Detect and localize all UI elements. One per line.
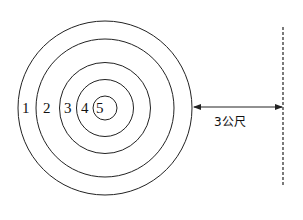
ring-label-5: 5 bbox=[96, 100, 104, 116]
ring-2 bbox=[36, 39, 174, 177]
diagram-canvas: 1 2 3 4 5 3公尺 bbox=[0, 0, 303, 220]
target-diagram: 1 2 3 4 5 3公尺 bbox=[0, 0, 303, 220]
ring-label-4: 4 bbox=[81, 100, 89, 116]
ring-3 bbox=[60, 63, 151, 154]
ring-label-3: 3 bbox=[64, 100, 72, 116]
ring-labels: 1 2 3 4 5 bbox=[22, 100, 104, 116]
distance-label: 3公尺 bbox=[214, 115, 246, 129]
ring-label-2: 2 bbox=[43, 100, 51, 116]
ring-label-1: 1 bbox=[22, 100, 30, 116]
